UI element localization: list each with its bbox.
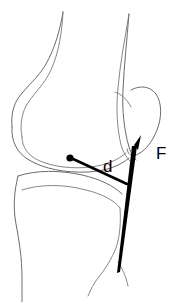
femur-shaft-anterior-line — [12, 12, 63, 127]
joint-center-point — [66, 154, 73, 161]
distance-label: d — [103, 157, 112, 176]
force-label: F — [156, 144, 166, 163]
knee-biomechanics-figure: d F — [0, 0, 185, 302]
tibia-subchondral-line — [22, 186, 120, 209]
patellar-tendon-force-vector — [117, 135, 141, 273]
knee-diagram-svg: d F — [0, 0, 185, 302]
femur-lateral-cortex-line — [123, 14, 136, 160]
tibia-lateral-cortex-line — [88, 208, 120, 296]
tibia-outline — [14, 171, 128, 302]
femur-outline — [12, 12, 136, 172]
femur-shaft-posterior-line — [21, 12, 63, 137]
tibia-medial-cortex-line — [14, 176, 22, 302]
